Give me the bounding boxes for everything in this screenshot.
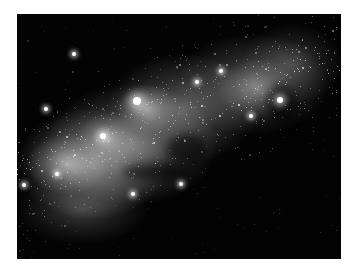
star <box>90 207 91 208</box>
star <box>214 53 216 55</box>
dust-lane <box>267 84 297 124</box>
star <box>336 90 337 91</box>
star <box>312 16 313 17</box>
star <box>157 157 158 158</box>
star <box>336 27 337 28</box>
star <box>151 102 152 103</box>
star <box>185 56 186 57</box>
star <box>242 90 243 91</box>
star <box>76 172 77 173</box>
star <box>103 141 104 142</box>
star <box>143 114 144 115</box>
star <box>29 213 30 214</box>
star <box>294 71 295 72</box>
star <box>302 67 304 69</box>
star <box>119 114 120 115</box>
star <box>253 34 254 35</box>
star <box>263 120 265 122</box>
star <box>150 202 151 203</box>
star <box>197 193 198 194</box>
star <box>175 120 176 121</box>
star <box>159 117 160 118</box>
star <box>278 227 279 228</box>
star <box>236 60 237 61</box>
star <box>286 75 287 76</box>
star <box>334 78 335 79</box>
star <box>155 134 156 135</box>
star <box>125 116 126 117</box>
star <box>139 199 140 200</box>
star <box>85 139 86 140</box>
star <box>86 160 87 161</box>
star <box>200 117 201 118</box>
star <box>245 135 246 136</box>
star <box>31 186 32 187</box>
star <box>67 120 68 121</box>
star <box>160 185 161 186</box>
star <box>20 165 21 166</box>
star <box>273 212 275 214</box>
star <box>332 30 334 32</box>
star <box>64 144 65 145</box>
star <box>281 210 282 211</box>
star <box>333 156 334 157</box>
star <box>258 61 259 62</box>
star <box>97 203 98 204</box>
star <box>108 141 109 142</box>
star <box>109 159 110 160</box>
star <box>219 150 220 151</box>
star <box>107 105 108 106</box>
star <box>268 63 269 64</box>
star <box>312 117 313 118</box>
star <box>233 103 234 104</box>
star <box>119 80 120 81</box>
star <box>286 49 287 50</box>
star <box>300 108 301 109</box>
star <box>133 238 134 239</box>
star <box>68 157 69 158</box>
star <box>179 107 180 108</box>
star <box>336 230 337 231</box>
star <box>154 58 155 59</box>
star <box>279 81 280 82</box>
star <box>48 124 49 125</box>
star <box>61 147 62 148</box>
star <box>17 169 18 170</box>
star <box>244 98 245 99</box>
star <box>157 99 158 100</box>
star <box>336 108 337 109</box>
star <box>249 154 251 156</box>
star <box>284 63 285 64</box>
star <box>80 149 81 150</box>
star <box>90 162 91 163</box>
star <box>233 22 234 23</box>
star <box>211 44 212 45</box>
star <box>134 95 135 96</box>
star <box>151 189 152 190</box>
star <box>268 70 269 71</box>
star <box>237 224 238 225</box>
star <box>232 106 233 107</box>
star <box>203 252 204 253</box>
star <box>42 213 43 214</box>
star <box>46 137 47 138</box>
star <box>310 88 311 89</box>
star <box>278 83 279 84</box>
star <box>166 84 167 85</box>
star <box>164 90 165 91</box>
star <box>29 200 30 201</box>
star <box>187 58 188 59</box>
star <box>336 29 337 30</box>
star <box>278 48 279 49</box>
star <box>67 248 68 249</box>
star <box>305 47 307 49</box>
star <box>173 123 174 124</box>
star <box>153 186 154 187</box>
star <box>324 140 325 141</box>
star <box>84 99 85 100</box>
star <box>36 72 37 73</box>
star <box>148 208 149 209</box>
star <box>197 74 198 75</box>
star <box>206 146 207 147</box>
star <box>160 69 161 70</box>
